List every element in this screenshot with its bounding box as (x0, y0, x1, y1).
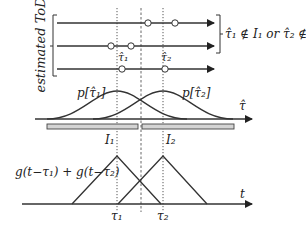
tau-hat-axis-label: τ̂ (239, 99, 246, 113)
estimate-line-2 (57, 43, 214, 49)
estimate-marker (119, 66, 125, 72)
estimate-marker (172, 20, 178, 26)
tod-estimation-diagram: estimated ToD τ̂₁ τ̂₂ τ̂₁ ∉ I₁ or τ̂₂ ∉ … (0, 0, 306, 234)
p2-label: p[τ̂₂] (182, 86, 211, 100)
right-bracket (216, 15, 223, 53)
t-axis-label: t (240, 187, 245, 201)
estimated-tod-label: estimated ToD (33, 0, 48, 93)
interval-1-label: I₁ (104, 133, 115, 147)
estimate-marker (128, 43, 134, 49)
tau-1-label: τ₁ (111, 209, 122, 223)
triangle-g2 (118, 156, 207, 204)
triangle-g1 (72, 156, 161, 204)
estimate-line-1 (57, 20, 214, 26)
estimate-marker (162, 66, 168, 72)
interval-bar-1 (47, 124, 138, 129)
tau-hat-2-label: τ̂₂ (161, 51, 172, 64)
tau-hat-1-label: τ̂₁ (118, 51, 129, 64)
interval-2-label: I₂ (165, 133, 176, 147)
p1-label: p[τ̂₁] (77, 86, 106, 100)
estimate-line-3 (57, 66, 214, 72)
condition-label: τ̂₁ ∉ I₁ or τ̂₂ ∉ I₂ (225, 27, 306, 41)
left-bracket (50, 15, 57, 76)
estimate-marker (145, 20, 151, 26)
estimate-marker (108, 43, 114, 49)
interval-bar-2 (142, 124, 234, 129)
tau-2-label: τ₂ (157, 209, 169, 223)
g-sum-label: g(t−τ₁) + g(t−τ₂) (15, 165, 120, 179)
